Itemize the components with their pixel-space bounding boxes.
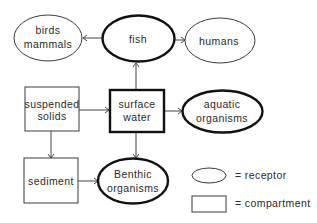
exposure-pathway-diagram: birds mammals fish humans suspended soli… <box>0 0 317 223</box>
node-label: suspended <box>25 98 80 110</box>
node-label: humans <box>199 35 239 47</box>
node-label: organisms <box>107 182 159 194</box>
node-surface-water: surface water <box>110 90 164 132</box>
node-label: water <box>122 111 151 123</box>
node-label: organisms <box>196 112 248 124</box>
node-sediment: sediment <box>24 158 78 203</box>
node-label: surface <box>118 98 155 110</box>
node-label: aquatic <box>204 98 241 110</box>
node-benthic-organisms: Benthic organisms <box>98 159 168 204</box>
ellipse-symbol-icon <box>192 168 226 183</box>
node-label: fish <box>129 33 147 45</box>
node-aquatic-organisms: aquatic organisms <box>183 91 263 133</box>
legend-label: = compartment <box>235 197 311 209</box>
node-birds-mammals: birds mammals <box>14 15 82 61</box>
legend-label: = receptor <box>235 169 287 181</box>
node-label: solids <box>37 110 66 122</box>
node-label: Benthic <box>114 168 152 180</box>
node-label: mammals <box>24 38 72 50</box>
legend-compartment: = compartment <box>192 196 311 212</box>
legend-receptor: = receptor <box>192 168 287 183</box>
node-humans: humans <box>185 18 255 63</box>
node-fish: fish <box>103 16 175 62</box>
rectangle-symbol-icon <box>192 196 226 212</box>
node-label: sediment <box>28 175 74 187</box>
node-suspended-solids: suspended solids <box>25 87 80 131</box>
legend: = receptor = compartment <box>192 168 311 212</box>
node-label: birds <box>36 24 61 36</box>
